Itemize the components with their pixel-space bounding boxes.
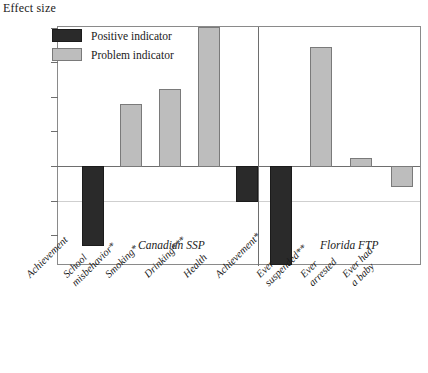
- panel-divider: [258, 27, 259, 266]
- figure-canvas: Effect size 0.20 0.15 0.10 0.05 0.00 −0.…: [0, 0, 428, 373]
- y-tick-mark: [51, 201, 58, 202]
- legend-label: Positive indicator: [91, 30, 172, 42]
- bar-school-misbehavior[interactable]: [120, 104, 142, 167]
- bar-ever-suspended[interactable]: [310, 47, 332, 167]
- y-tick-mark: [51, 131, 58, 132]
- legend-label: Problem indicator: [91, 49, 174, 61]
- bar-ever-had-a-baby[interactable]: [391, 166, 413, 187]
- bar-ever-arrested[interactable]: [350, 158, 372, 167]
- bar-smoking[interactable]: [159, 89, 181, 167]
- bar-health-canadian[interactable]: [236, 166, 258, 202]
- y-axis-title: Effect size: [3, 1, 56, 16]
- legend-item-positive: Positive indicator: [52, 27, 174, 44]
- legend-swatch-icon: [52, 29, 82, 42]
- bar-drinking[interactable]: [198, 27, 220, 167]
- y-tick-mark: [51, 235, 58, 236]
- y-tick-mark: [51, 166, 58, 167]
- legend: Positive indicator Problem indicator: [52, 27, 174, 65]
- y-tick-mark: [51, 97, 58, 98]
- legend-item-problem: Problem indicator: [52, 46, 174, 63]
- legend-swatch-icon: [52, 48, 82, 61]
